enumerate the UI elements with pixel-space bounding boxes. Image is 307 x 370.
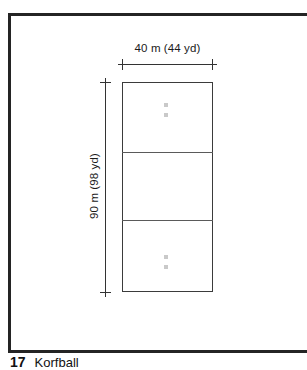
width-dimension-arrow-right [208, 64, 217, 65]
width-dimension-line [122, 64, 213, 65]
korfball-post-dot-lower [164, 113, 168, 117]
figure-caption-title: Korfball [35, 355, 79, 370]
height-dimension-arrow-bottom [105, 288, 106, 297]
page-frame-left-rule [8, 13, 11, 353]
korfball-post-dot-lower [164, 265, 168, 269]
height-dimension-arrow-top [105, 78, 106, 87]
korfball-zone-divider-line-1 [122, 152, 213, 153]
height-dimension-label: 90 m (98 yd) [88, 86, 100, 286]
page-frame-bottom-rule [8, 350, 307, 353]
korfball-post-marker-bottom [164, 255, 169, 269]
page-frame-top-rule [8, 13, 307, 16]
width-dimension-arrow-left [118, 64, 127, 65]
width-dimension-label: 40 m (44 yd) [122, 42, 213, 54]
height-dimension-line [105, 82, 106, 292]
figure-caption: 17 Korfball [10, 354, 79, 370]
korfball-post-dot-upper [164, 103, 168, 107]
figure-caption-number: 17 [10, 354, 26, 370]
korfball-post-dot-upper [164, 255, 168, 259]
korfball-post-marker-top [164, 103, 169, 117]
korfball-zone-divider-line-2 [122, 220, 213, 221]
